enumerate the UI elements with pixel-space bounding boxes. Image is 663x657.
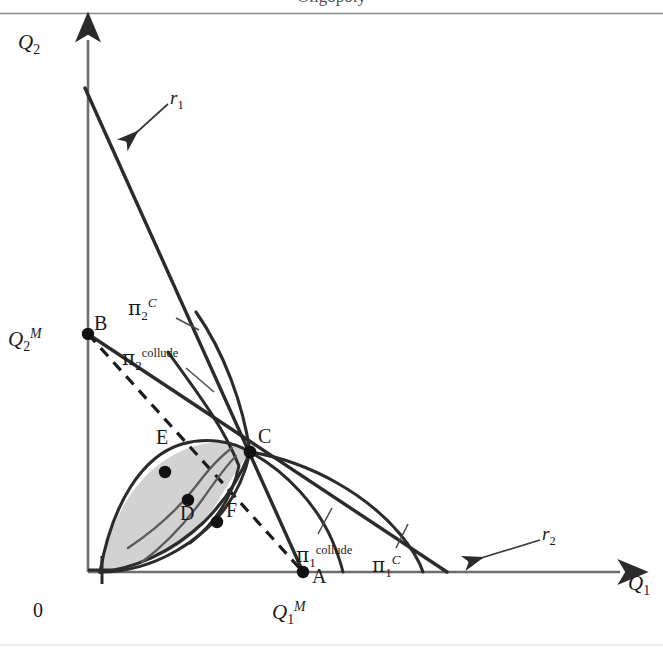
leader-line-pi2-collude [186,368,214,392]
point-marker-B[interactable] [82,328,94,340]
q2-monopoly-label: Q2M [8,327,42,354]
y-axis-label: Q2 [18,32,40,57]
isoprofit-label-pi2-cournot: π2C [128,296,157,322]
point-label-A: A [312,566,326,586]
x-axis-label: Q1 [628,573,650,598]
point-marker-F[interactable] [211,516,223,528]
point-label-B: B [94,313,107,333]
figure-root: Oligopoly [0,0,663,657]
point-label-F: F [226,500,237,520]
leader-line-pi2-cournot [176,318,199,330]
point-label-E: E [156,427,168,447]
q1-monopoly-label: Q1M [272,600,306,627]
point-marker-E[interactable] [159,466,171,478]
reaction-label-r1: r1 [170,88,184,111]
point-marker-C[interactable] [244,446,257,459]
origin-label: 0 [33,600,43,620]
point-label-D: D [180,503,194,523]
isoprofit-label-pi1-cournot: π1C [372,553,401,579]
leader-arrow-r1 [126,104,168,142]
reaction-label-r2: r2 [542,524,556,547]
point-label-C: C [258,426,271,446]
isoprofit-label-pi2-collude: π2collude [122,347,178,372]
leader-line-pi1-collude [318,508,332,534]
leader-arrow-r2 [468,540,540,562]
